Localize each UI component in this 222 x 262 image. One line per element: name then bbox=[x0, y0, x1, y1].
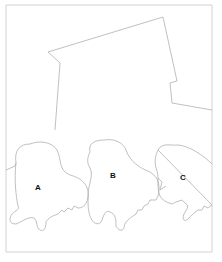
ground-line-left bbox=[6, 163, 16, 170]
label-c: C bbox=[180, 173, 186, 182]
box-outline bbox=[48, 17, 212, 130]
label-a: A bbox=[35, 183, 41, 192]
puppy-c-outline bbox=[155, 145, 212, 221]
puppy-b-outline bbox=[88, 140, 159, 231]
drawing-canvas: A B C bbox=[0, 0, 222, 262]
frame-border bbox=[6, 5, 212, 252]
puppy-a-outline bbox=[10, 142, 88, 231]
label-b: B bbox=[110, 171, 116, 180]
